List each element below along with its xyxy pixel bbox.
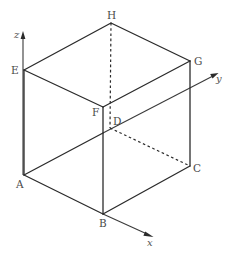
edge-BC: [103, 166, 190, 214]
edge-GH: [111, 23, 190, 61]
edge-DC: [110, 128, 190, 166]
vertex-label-G: G: [194, 56, 202, 67]
vertex-label-A: A: [16, 179, 24, 190]
axis-label-z: z: [14, 30, 19, 40]
edge-AB: [24, 175, 103, 214]
z-axis-arrow-icon: [21, 31, 26, 39]
axis-label-x: x: [147, 238, 153, 248]
vertex-label-E: E: [11, 65, 19, 76]
edge-FG: [103, 61, 190, 107]
visible-edges: [24, 23, 190, 214]
vertex-label-B: B: [99, 218, 107, 229]
vertex-label-D: D: [113, 116, 121, 127]
vertex-label-C: C: [193, 163, 201, 174]
cube-diagram: [0, 0, 232, 260]
edge-HE: [24, 23, 111, 70]
axis-label-y: y: [216, 74, 222, 84]
edge-EF: [24, 70, 103, 107]
edge-DA: [24, 133, 103, 175]
x-axis: [103, 214, 147, 234]
edge-HD: [110, 23, 111, 128]
vertex-label-F: F: [92, 107, 99, 118]
vertex-label-H: H: [107, 10, 116, 21]
